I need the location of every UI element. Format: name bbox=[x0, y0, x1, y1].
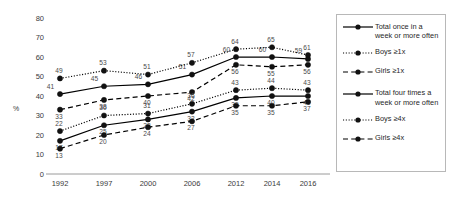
y-axis-title: % bbox=[13, 105, 19, 112]
legend-item[interactable]: Boys ≥4x bbox=[341, 114, 441, 126]
data-label: 51 bbox=[179, 63, 187, 70]
data-label: 64 bbox=[231, 38, 239, 45]
legend-label: Boys ≥1x bbox=[375, 47, 405, 57]
data-label: 55 bbox=[267, 70, 275, 77]
data-label: 45 bbox=[91, 75, 99, 82]
data-point bbox=[269, 54, 274, 59]
x-tick-label: 1992 bbox=[52, 179, 69, 188]
y-tick-label: 60 bbox=[36, 53, 44, 62]
legend-line-sample-dotted bbox=[341, 47, 375, 59]
data-label: 13 bbox=[55, 152, 63, 159]
data-point bbox=[189, 109, 194, 114]
data-point bbox=[233, 62, 238, 67]
data-label: 35 bbox=[231, 109, 239, 116]
y-tick-label: 0 bbox=[40, 170, 44, 179]
data-label: 37 bbox=[303, 105, 311, 112]
data-point bbox=[305, 52, 310, 57]
data-point bbox=[145, 125, 150, 130]
data-label: 61 bbox=[303, 44, 311, 51]
data-point bbox=[233, 47, 238, 52]
data-point bbox=[233, 54, 238, 59]
data-point bbox=[189, 101, 194, 106]
chart-legend: Total once in a week or more oftenBoys ≥… bbox=[336, 14, 446, 172]
data-point bbox=[145, 111, 150, 116]
data-label: 41 bbox=[47, 83, 55, 90]
x-axis-ticks: 1992199720002006201220142016 bbox=[52, 179, 317, 188]
data-point bbox=[101, 132, 106, 137]
legend-line-sample-solid bbox=[341, 88, 375, 100]
y-tick-label: 20 bbox=[36, 131, 44, 140]
y-tick-label: 50 bbox=[36, 72, 44, 81]
data-label: 35 bbox=[267, 109, 275, 116]
data-point bbox=[57, 146, 62, 151]
legend-label: Girls ≥4x bbox=[375, 133, 404, 143]
legend-item[interactable]: Total four times a week or more often bbox=[341, 88, 441, 107]
data-point bbox=[57, 91, 62, 96]
legend-label: Total once in a week or more often bbox=[375, 21, 438, 40]
legend-line-sample-dashed bbox=[341, 133, 375, 145]
data-point bbox=[269, 93, 274, 98]
data-point bbox=[101, 123, 106, 128]
data-label: 27 bbox=[187, 124, 195, 131]
data-point bbox=[57, 76, 62, 81]
data-label: 20 bbox=[99, 138, 107, 145]
y-tick-label: 10 bbox=[36, 150, 44, 159]
data-point bbox=[233, 88, 238, 93]
data-point bbox=[269, 103, 274, 108]
data-label: 51 bbox=[143, 63, 151, 70]
legend-item[interactable]: Girls ≥1x bbox=[341, 66, 441, 78]
legend-line-sample-dashed bbox=[341, 66, 375, 78]
data-point bbox=[305, 88, 310, 93]
legend-line-sample-solid bbox=[341, 21, 375, 33]
data-label: 22 bbox=[55, 120, 63, 127]
x-tick-label: 2014 bbox=[264, 179, 281, 188]
data-point bbox=[57, 138, 62, 143]
y-tick-label: 70 bbox=[36, 33, 44, 42]
y-tick-label: 80 bbox=[36, 14, 44, 23]
data-point bbox=[233, 95, 238, 100]
data-label: 65 bbox=[267, 36, 275, 43]
data-label: 49 bbox=[55, 67, 63, 74]
y-tick-label: 40 bbox=[36, 92, 44, 101]
data-label: 43 bbox=[231, 79, 239, 86]
data-point bbox=[269, 86, 274, 91]
x-tick-label: 1997 bbox=[96, 179, 113, 188]
data-point bbox=[57, 129, 62, 134]
data-point bbox=[145, 93, 150, 98]
data-point bbox=[305, 99, 310, 104]
data-point bbox=[101, 84, 106, 89]
data-label: 36 bbox=[187, 92, 195, 99]
data-point bbox=[57, 107, 62, 112]
x-tick-label: 2000 bbox=[140, 179, 157, 188]
data-label: 53 bbox=[99, 59, 107, 66]
data-label: 24 bbox=[143, 130, 151, 137]
data-point bbox=[189, 72, 194, 77]
data-label: 33 bbox=[55, 113, 63, 120]
legend-item[interactable]: Total once in a week or more often bbox=[341, 21, 441, 40]
data-point bbox=[101, 97, 106, 102]
legend-label: Total four times a week or more often bbox=[375, 88, 438, 107]
data-label: 57 bbox=[187, 51, 195, 58]
data-label: 30 bbox=[99, 104, 107, 111]
data-point bbox=[145, 72, 150, 77]
data-point bbox=[269, 45, 274, 50]
data-label: 56 bbox=[303, 68, 311, 75]
x-tick-label: 2006 bbox=[184, 179, 201, 188]
data-label: 60 bbox=[259, 46, 267, 53]
legend-item[interactable]: Girls ≥4x bbox=[341, 133, 441, 145]
x-tick-label: 2012 bbox=[228, 179, 245, 188]
data-point bbox=[101, 113, 106, 118]
data-point bbox=[145, 117, 150, 122]
data-point bbox=[269, 64, 274, 69]
legend-label: Boys ≥4x bbox=[375, 114, 405, 124]
chart-container: 01020304050607080%1992199720002006201220… bbox=[0, 0, 450, 202]
legend-item[interactable]: Boys ≥1x bbox=[341, 47, 441, 59]
data-point bbox=[189, 60, 194, 65]
data-point bbox=[101, 68, 106, 73]
data-point bbox=[189, 119, 194, 124]
data-label: 56 bbox=[231, 68, 239, 75]
data-label: 31 bbox=[143, 102, 151, 109]
data-label: 44 bbox=[267, 77, 275, 84]
data-point bbox=[145, 82, 150, 87]
data-point bbox=[305, 93, 310, 98]
